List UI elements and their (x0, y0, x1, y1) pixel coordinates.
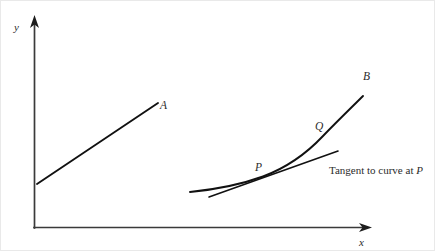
y-axis-label: y (14, 22, 19, 33)
curve-pqb (190, 96, 363, 192)
figure-drawing (1, 1, 435, 251)
tangent-caption: Tangent to curve at P (329, 165, 423, 176)
label-line-a: A (160, 100, 167, 112)
label-point-p: P (255, 162, 262, 174)
line-segment-a (37, 103, 158, 184)
tangent-line-at-p (209, 151, 338, 197)
label-point-q: Q (315, 121, 323, 133)
tangent-caption-point: P (416, 164, 423, 176)
figure-canvas: y x A B P Q Tangent to curve at P (0, 0, 435, 251)
label-point-b: B (363, 71, 370, 83)
x-axis-label: x (359, 237, 364, 248)
tangent-caption-text: Tangent to curve at (329, 164, 416, 176)
